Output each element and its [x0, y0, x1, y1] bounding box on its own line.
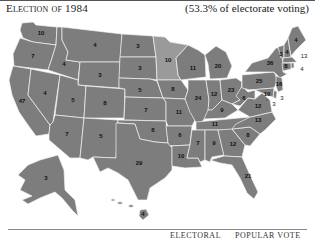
state-vt: 3 — [278, 45, 284, 58]
svg-text:47: 47 — [19, 98, 26, 104]
svg-text:13: 13 — [301, 53, 308, 59]
state-az: 7 — [49, 115, 84, 158]
us-electoral-map: 10 7 47 4 4 4 3 5 7 8 5 3 3 5 7 8 29 10 … — [0, 16, 315, 221]
state-nj: 16 — [276, 76, 283, 92]
state-mi: 20 — [205, 46, 232, 79]
state-me: 4 — [288, 26, 306, 56]
svg-text:3: 3 — [280, 95, 284, 101]
svg-text:12: 12 — [211, 91, 218, 97]
state-co: 8 — [84, 86, 125, 118]
electoral-column-label: ELECTORAL — [170, 231, 221, 239]
svg-text:3: 3 — [272, 101, 276, 107]
state-ct: 8 — [282, 63, 291, 71]
svg-text:13: 13 — [255, 117, 262, 123]
state-fl: 21 — [210, 156, 258, 199]
svg-text:10: 10 — [38, 30, 45, 36]
map-title: Election of 1984 — [6, 2, 88, 14]
popular-vote-column-label: POPULAR VOTE — [235, 231, 301, 239]
state-ak: 3 — [18, 155, 78, 216]
svg-text:12: 12 — [255, 103, 262, 109]
svg-text:10: 10 — [264, 91, 271, 97]
svg-text:20: 20 — [215, 63, 222, 69]
top-rule — [0, 0, 315, 1]
svg-text:36: 36 — [267, 60, 274, 66]
svg-text:23: 23 — [228, 87, 235, 93]
state-sd: 3 — [119, 57, 157, 80]
svg-text:21: 21 — [245, 173, 252, 179]
state-nm: 5 — [80, 118, 118, 160]
turnout-note: (53.3% of electorate voting) — [185, 2, 309, 14]
state-ri: 4 — [291, 63, 304, 72]
svg-text:11: 11 — [190, 65, 197, 71]
svg-text:10: 10 — [165, 57, 172, 63]
svg-text:10: 10 — [178, 153, 185, 159]
state-wy: 3 — [78, 62, 120, 88]
svg-text:4: 4 — [300, 66, 304, 72]
svg-text:12: 12 — [230, 141, 237, 147]
bottom-rule — [8, 229, 307, 230]
state-mt: 4 — [62, 27, 122, 62]
svg-text:16: 16 — [276, 81, 283, 87]
state-nd: 3 — [120, 34, 156, 57]
state-pa: 25 — [242, 72, 278, 90]
state-hi: 4 — [111, 199, 149, 220]
svg-text:11: 11 — [212, 121, 219, 127]
svg-text:29: 29 — [136, 160, 143, 166]
svg-text:25: 25 — [256, 78, 263, 84]
state-ne: 5 — [119, 78, 163, 98]
svg-text:11: 11 — [176, 109, 183, 115]
state-ar: 6 — [166, 126, 192, 146]
state-ks: 7 — [124, 97, 166, 121]
svg-text:24: 24 — [195, 95, 202, 101]
